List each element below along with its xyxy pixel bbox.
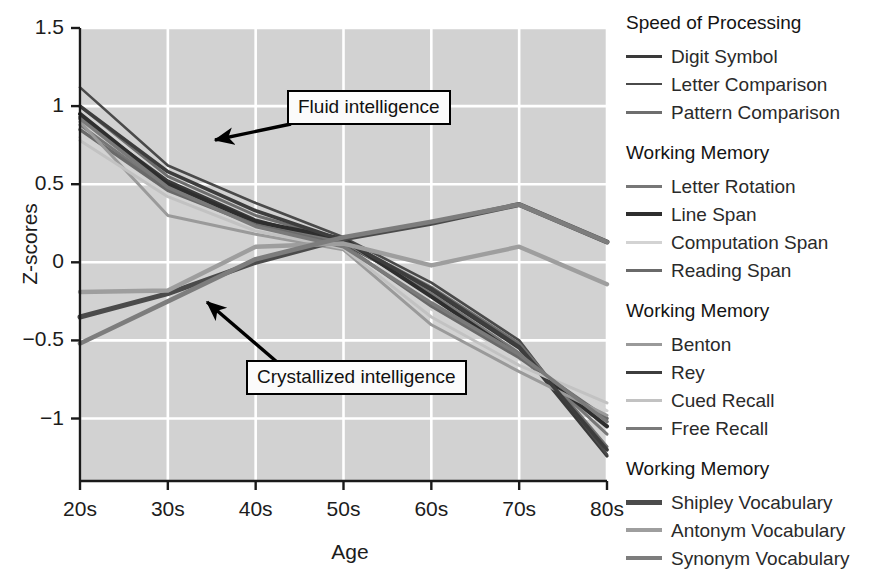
- x-tick-label: 70s: [479, 497, 559, 521]
- x-tick-label: 60s: [391, 497, 471, 521]
- y-axis-title: Z-scores: [18, 194, 42, 294]
- x-tick-label: 30s: [128, 497, 208, 521]
- legend-item-label: Antonym Vocabulary: [671, 521, 845, 540]
- legend-group-title: Working Memory: [626, 458, 769, 480]
- y-tick-label: 1.5: [0, 15, 64, 39]
- legend-line-swatch-icon: [626, 427, 662, 430]
- legend-group-title: Working Memory: [626, 300, 769, 322]
- legend-line-swatch-icon: [626, 500, 662, 505]
- legend-item[interactable]: Letter Comparison: [626, 72, 827, 96]
- annotation-fluid-intelligence: Fluid intelligence: [287, 90, 451, 125]
- legend-item-label: Rey: [671, 363, 705, 382]
- y-tick-label: −1: [0, 406, 64, 430]
- legend-item[interactable]: Letter Rotation: [626, 174, 796, 198]
- legend-line-swatch-icon: [626, 343, 662, 346]
- legend-line-swatch-icon: [626, 55, 662, 58]
- legend-line-swatch-icon: [626, 111, 662, 114]
- legend-line-swatch-icon: [626, 185, 662, 188]
- legend-item-label: Cued Recall: [671, 391, 775, 410]
- legend-group-title: Working Memory: [626, 142, 769, 164]
- x-axis-title: Age: [300, 540, 400, 564]
- legend-item-label: Reading Span: [671, 261, 791, 280]
- legend-item[interactable]: Computation Span: [626, 230, 828, 254]
- y-tick-label: −0.5: [0, 327, 64, 351]
- legend-item-label: Free Recall: [671, 419, 768, 438]
- legend-item-label: Letter Rotation: [671, 177, 796, 196]
- figure: 1.510.50−0.5−1 20s30s40s50s60s70s80s Z-s…: [0, 0, 891, 587]
- legend-item-label: Computation Span: [671, 233, 828, 252]
- legend-line-swatch-icon: [626, 83, 662, 85]
- legend-item-label: Letter Comparison: [671, 75, 827, 94]
- legend-item[interactable]: Benton: [626, 332, 731, 356]
- legend-item-label: Line Span: [671, 205, 757, 224]
- legend-line-swatch-icon: [626, 528, 662, 532]
- annotation-crystallized-intelligence: Crystallized intelligence: [246, 360, 467, 395]
- legend-item[interactable]: Reading Span: [626, 258, 791, 282]
- chart-legend: Speed of ProcessingDigit SymbolLetter Co…: [626, 0, 891, 587]
- legend-item-label: Pattern Comparison: [671, 103, 840, 122]
- legend-item-label: Synonym Vocabulary: [671, 549, 850, 568]
- legend-line-swatch-icon: [626, 269, 662, 272]
- y-tick-label: 1: [0, 93, 64, 117]
- legend-item[interactable]: Line Span: [626, 202, 757, 226]
- legend-item-label: Shipley Vocabulary: [671, 493, 833, 512]
- legend-line-swatch-icon: [626, 556, 662, 560]
- legend-line-swatch-icon: [626, 371, 662, 374]
- legend-item[interactable]: Synonym Vocabulary: [626, 546, 850, 570]
- legend-line-swatch-icon: [626, 241, 662, 244]
- y-tick-label: 0.5: [0, 171, 64, 195]
- legend-item-label: Digit Symbol: [671, 47, 778, 66]
- legend-item[interactable]: Digit Symbol: [626, 44, 778, 68]
- x-tick-label: 50s: [304, 497, 384, 521]
- legend-item[interactable]: Cued Recall: [626, 388, 775, 412]
- legend-item[interactable]: Rey: [626, 360, 705, 384]
- legend-line-swatch-icon: [626, 212, 662, 216]
- legend-group-title: Speed of Processing: [626, 12, 801, 34]
- legend-item[interactable]: Antonym Vocabulary: [626, 518, 845, 542]
- legend-item[interactable]: Free Recall: [626, 416, 768, 440]
- legend-item[interactable]: Pattern Comparison: [626, 100, 840, 124]
- legend-item-label: Benton: [671, 335, 731, 354]
- legend-line-swatch-icon: [626, 399, 662, 402]
- x-tick-label: 40s: [216, 497, 296, 521]
- legend-item[interactable]: Shipley Vocabulary: [626, 490, 833, 514]
- x-tick-label: 20s: [40, 497, 120, 521]
